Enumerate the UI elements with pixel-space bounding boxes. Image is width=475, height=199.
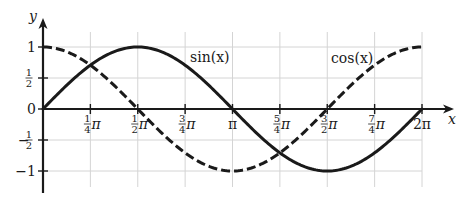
x-axis-label: x [448, 111, 456, 127]
y-tick-label: 0 [27, 101, 36, 117]
x-tick-pi: π [375, 116, 386, 132]
x-tick-den: 2 [321, 124, 327, 135]
x-tick-pi: π [327, 116, 338, 132]
x-tick-label: 2π [413, 116, 431, 132]
axes: x y [28, 8, 456, 193]
x-tick-num: 5 [274, 113, 280, 124]
x-tick-pi: π [138, 116, 149, 132]
x-tick-num: 7 [368, 113, 374, 124]
sin-cos-chart: x y 1120−12−114π12π34ππ54π32π74π2π sin(x… [0, 0, 475, 199]
x-tick-den: 4 [368, 124, 374, 135]
x-tick-num: 1 [84, 113, 90, 124]
x-tick-label: π [228, 116, 237, 132]
y-tick-den: 2 [26, 140, 32, 151]
y-tick-den: 2 [26, 78, 32, 89]
x-tick-den: 4 [84, 124, 90, 135]
x-tick-den: 4 [274, 124, 280, 135]
x-tick-pi: π [90, 116, 101, 132]
cos-label: cos(x) [331, 50, 373, 66]
y-tick-label: 1 [27, 39, 36, 55]
sin-label: sin(x) [190, 49, 230, 65]
x-tick-pi: π [280, 116, 291, 132]
y-tick-num: 1 [26, 129, 32, 140]
x-tick-num: 3 [179, 113, 185, 124]
x-tick-den: 4 [179, 124, 185, 135]
y-tick-num: 1 [26, 67, 32, 78]
x-tick-pi: π [185, 116, 196, 132]
x-tick-num: 1 [132, 113, 138, 124]
y-axis-label: y [28, 8, 38, 24]
y-tick-label: −1 [15, 163, 36, 179]
x-tick-den: 2 [132, 124, 138, 135]
